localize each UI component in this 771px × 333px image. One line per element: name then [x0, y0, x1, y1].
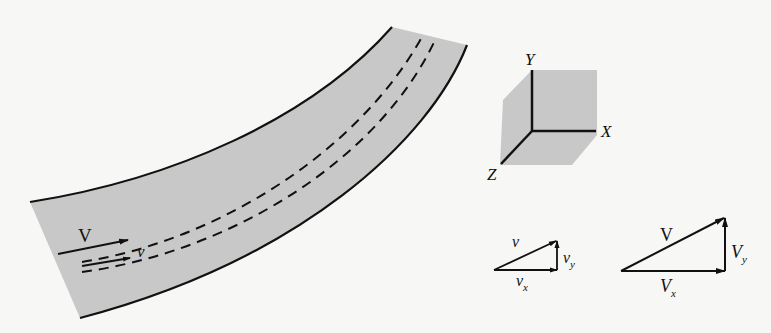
large-horiz-label-sub: x [671, 287, 676, 299]
large-horiz-label: Vx [660, 277, 676, 295]
small-velocity-triangle [494, 241, 557, 270]
curved-channel [30, 27, 467, 318]
small-horiz-label: vx [516, 273, 528, 289]
large-hyp-label: V [660, 226, 673, 244]
figure: V v Y X Z v vy vx V Vy Vx [0, 0, 771, 333]
z-axis-label: Z [487, 166, 496, 183]
x-axis-label: X [601, 123, 611, 140]
small-vert-label-sub: y [570, 258, 575, 270]
large-vert-label-sub: y [742, 253, 747, 265]
large-vert-label-main: V [731, 242, 742, 262]
large-horiz-label-main: V [660, 276, 671, 296]
small-horiz-label-sub: x [523, 281, 528, 293]
large-velocity-triangle [621, 218, 725, 271]
coordinate-axes [500, 70, 597, 165]
mean-velocity-label: V [78, 226, 92, 245]
small-hyp-vector [494, 241, 556, 270]
small-vert-label: vy [563, 250, 575, 266]
y-axis-label: Y [525, 51, 534, 68]
small-hyp-label: v [512, 234, 519, 250]
diagram-canvas [0, 0, 771, 333]
large-vert-label: Vy [731, 243, 747, 261]
local-velocity-label: v [137, 243, 145, 260]
